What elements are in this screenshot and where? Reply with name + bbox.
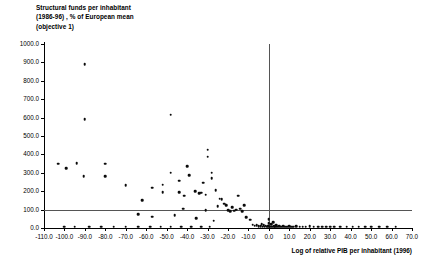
y-axis-tick-label: 0.0: [30, 225, 39, 231]
x-axis-tick-label: 0.0: [264, 234, 273, 240]
x-axis-tick-label: -10.0: [241, 234, 255, 240]
x-axis-tick-label: -60.0: [139, 234, 153, 240]
x-axis-tick: [126, 228, 127, 231]
x-axis-tick: [187, 228, 188, 231]
data-point: [183, 195, 186, 198]
data-point: [268, 218, 271, 221]
data-point: [206, 149, 209, 152]
data-point: [370, 225, 373, 228]
y-axis-tick-label: 300.0: [23, 170, 39, 176]
data-point: [169, 225, 172, 228]
x-axis-tick-label: 20.0: [304, 234, 316, 240]
y-axis-tick: [41, 99, 44, 100]
data-point: [124, 225, 127, 228]
data-point: [351, 226, 354, 229]
data-point: [237, 195, 240, 198]
y-axis-tick: [41, 210, 44, 211]
data-point: [137, 213, 140, 216]
scatter-chart: Structural funds per inhabitant (1986-96…: [0, 0, 426, 267]
data-point: [225, 204, 228, 207]
data-point: [241, 210, 244, 213]
y-axis-tick-label: 200.0: [23, 188, 39, 194]
data-point: [272, 221, 275, 224]
chart-title-line-1: Structural funds per inhabitant: [36, 3, 236, 12]
data-point: [83, 175, 86, 178]
x-axis-tick: [392, 228, 393, 231]
x-axis-tick: [371, 228, 372, 231]
x-axis-tick: [351, 228, 352, 231]
data-point: [325, 225, 328, 228]
x-axis-tick: [310, 228, 311, 231]
x-axis-title: Log of relative PIB per inhabitant (1996…: [292, 247, 412, 254]
x-axis-tick: [289, 228, 290, 231]
data-point: [304, 225, 307, 228]
data-point: [214, 189, 217, 192]
data-point: [216, 205, 219, 208]
x-axis-tick: [269, 228, 270, 231]
y-axis-tick-label: 1000.0: [20, 41, 39, 47]
x-axis-tick: [105, 228, 106, 231]
data-point: [339, 226, 342, 229]
data-point: [200, 226, 203, 229]
data-point: [100, 225, 103, 228]
data-point: [182, 207, 185, 210]
data-point: [57, 162, 60, 165]
data-point: [178, 179, 181, 182]
data-point: [317, 225, 320, 228]
x-axis-tick: [412, 228, 413, 231]
data-point: [206, 155, 209, 158]
y-axis-tick-label: 900.0: [23, 59, 39, 65]
data-point: [188, 174, 191, 177]
y-axis-tick: [41, 136, 44, 137]
x-axis-tick: [64, 228, 65, 231]
data-point: [84, 63, 87, 66]
x-axis-tick-label: 40.0: [345, 234, 357, 240]
data-point: [333, 225, 336, 228]
x-axis-tick-label: -90.0: [78, 234, 92, 240]
data-point: [63, 225, 66, 228]
data-point: [186, 165, 189, 168]
x-axis-tick-label: -110.0: [35, 234, 52, 240]
y-axis-tick: [41, 81, 44, 82]
y-axis-tick: [41, 62, 44, 63]
data-point: [394, 226, 397, 229]
data-point: [364, 226, 367, 229]
data-point: [169, 172, 172, 175]
x-axis-tick-label: 60.0: [385, 234, 397, 240]
x-axis-tick: [208, 228, 209, 231]
chart-title: Structural funds per inhabitant (1986-96…: [36, 3, 236, 31]
data-point: [243, 204, 246, 207]
data-point: [378, 226, 381, 229]
data-point: [124, 184, 127, 187]
data-point: [249, 218, 252, 221]
data-point: [245, 216, 248, 219]
plot-area: 0.0100.0200.0300.0400.0500.0600.0700.080…: [44, 44, 412, 228]
data-point: [161, 183, 164, 186]
data-point: [151, 215, 154, 218]
data-point: [88, 226, 91, 229]
reference-line-vertical: [269, 44, 270, 228]
x-axis-tick: [228, 228, 229, 231]
data-point: [204, 209, 207, 212]
x-axis-tick: [85, 228, 86, 231]
x-axis-tick: [330, 228, 331, 231]
y-axis-tick: [41, 154, 44, 155]
data-point: [229, 210, 232, 213]
x-axis-tick-label: -70.0: [119, 234, 133, 240]
x-axis-tick-label: -50.0: [159, 234, 173, 240]
data-point: [235, 208, 238, 211]
y-axis-tick-label: 100.0: [23, 206, 39, 212]
y-axis-tick-label: 500.0: [23, 133, 39, 139]
x-axis-tick: [248, 228, 249, 231]
x-axis-tick-label: 10.0: [283, 234, 295, 240]
data-point: [308, 225, 311, 228]
chart-title-line-3: (objective 1): [36, 22, 236, 31]
data-point: [210, 177, 213, 180]
x-axis-tick: [167, 228, 168, 231]
x-axis-tick: [44, 228, 45, 231]
data-point: [208, 225, 211, 228]
y-axis-tick: [41, 118, 44, 119]
x-axis-tick-label: -80.0: [98, 234, 112, 240]
data-point: [358, 225, 361, 228]
data-point: [200, 191, 203, 194]
